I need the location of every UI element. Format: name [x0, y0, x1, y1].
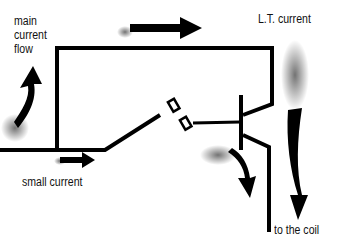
main-flow-arrow-icon — [14, 66, 42, 128]
small-current-arrow-icon — [60, 152, 95, 168]
switch-contacts — [168, 99, 192, 130]
to-the-coil-label: to the coil — [274, 223, 319, 237]
circuit-diagram — [0, 0, 345, 247]
top-flow-arrow-icon — [130, 17, 202, 39]
small-current-label: small current — [22, 175, 82, 189]
base-wire — [193, 122, 240, 123]
lt-current-label: L.T. current — [258, 12, 311, 26]
label-line: flow — [14, 42, 47, 56]
lt-current-arrow-icon — [287, 108, 308, 220]
main-current-flow-label: main current flow — [14, 14, 47, 56]
label-line: main — [14, 14, 47, 28]
label-line: current — [14, 28, 47, 42]
